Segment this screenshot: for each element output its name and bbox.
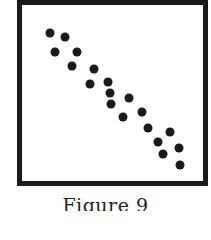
- data-point: [159, 150, 168, 159]
- data-point: [104, 78, 113, 87]
- data-point: [90, 65, 99, 74]
- data-point: [119, 113, 128, 122]
- data-point: [166, 128, 175, 137]
- data-point: [107, 100, 116, 109]
- data-point: [61, 33, 70, 42]
- data-point: [68, 62, 77, 71]
- data-point: [175, 144, 184, 153]
- data-point: [86, 80, 95, 89]
- data-point: [154, 138, 163, 147]
- data-point: [144, 124, 153, 133]
- data-point: [46, 29, 55, 38]
- data-point: [73, 48, 82, 57]
- data-point: [106, 89, 115, 98]
- data-point: [176, 161, 185, 170]
- data-point: [125, 94, 134, 103]
- figure-caption: Figure 9: [0, 194, 211, 211]
- data-point: [51, 48, 60, 57]
- data-point: [138, 108, 147, 117]
